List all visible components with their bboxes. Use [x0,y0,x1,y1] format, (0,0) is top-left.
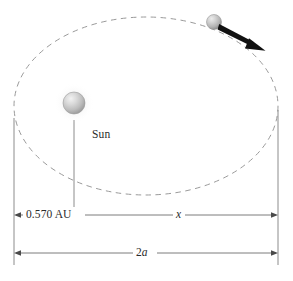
sun-sphere [63,92,85,114]
major-axis-label-symbol: a [142,246,148,258]
orbit-diagram-figure: Sun 0.570 AU x 2a [0,0,293,281]
sun-label: Sun [92,129,111,141]
diagram-canvas [0,0,293,281]
elliptical-orbit-path [14,17,278,195]
x-distance-label: x [176,209,181,221]
major-axis-label: 2a [136,247,148,259]
perihelion-distance-label: 0.570 AU [26,209,72,221]
velocity-arrow-icon [218,24,266,51]
